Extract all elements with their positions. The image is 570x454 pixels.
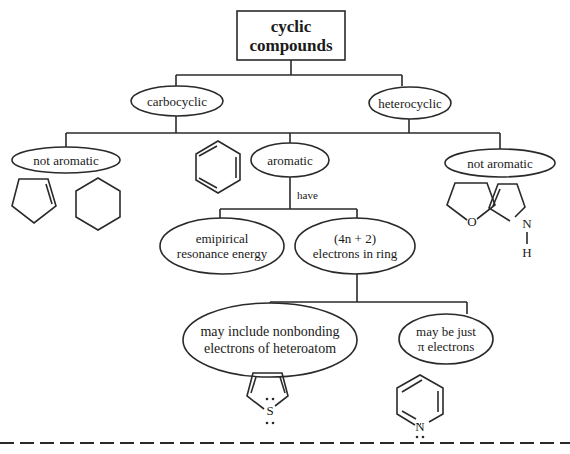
not-aromatic-left-label: not aromatic — [33, 153, 98, 168]
nitrogen-atom-label: N — [522, 216, 531, 232]
cyclohexane-structure — [76, 178, 120, 230]
pyridine-nitrogen-label: N — [415, 419, 424, 435]
have-edge-label: have — [297, 189, 318, 201]
heterocyclic-label: heterocyclic — [378, 96, 442, 111]
root-title-line1: cyclic — [249, 17, 332, 36]
aromatic-label: aromatic — [267, 153, 312, 168]
nonbonding-line1: may include nonbonding — [200, 323, 339, 340]
hydrogen-atom-label: H — [522, 245, 531, 261]
huckel-rule-label: (4n + 2) electrons in ring — [313, 231, 397, 261]
cyclopentene-structure — [12, 179, 56, 223]
empirical-line2: resonance energy — [177, 246, 267, 261]
nonbonding-line2: electrons of heteroatom — [200, 340, 339, 357]
carbocyclic-label: carbocyclic — [147, 94, 207, 109]
pyridine-structure — [397, 375, 443, 425]
root-title: cyclic compounds — [249, 17, 332, 55]
empirical-line1: emipirical — [177, 231, 267, 246]
diagram-canvas — [0, 0, 570, 454]
pyrroline-structure — [489, 184, 527, 244]
sulfur-atom-label: S — [266, 403, 273, 419]
pi-electrons-label: may be just π electrons — [416, 324, 476, 354]
not-aromatic-right-label: not aromatic — [467, 156, 532, 171]
root-title-line2: compounds — [249, 36, 332, 55]
nonbonding-electrons-label: may include nonbonding electrons of hete… — [200, 323, 339, 357]
pi-line2: π electrons — [416, 339, 476, 354]
pi-line1: may be just — [416, 324, 476, 339]
huckel-line1: (4n + 2) — [313, 231, 397, 246]
oxygen-atom-label: O — [467, 214, 476, 230]
lone-pair-dots — [266, 398, 425, 439]
empirical-resonance-label: emipirical resonance energy — [177, 231, 267, 261]
benzene-structure — [196, 141, 240, 193]
huckel-line2: electrons in ring — [313, 246, 397, 261]
